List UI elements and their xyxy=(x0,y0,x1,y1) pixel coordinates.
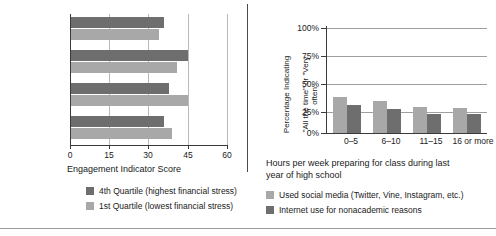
legend-item-4th-quartile: 4th Quartile (highest financial stress) xyxy=(86,186,251,196)
left-y-axis-line xyxy=(70,14,71,145)
ytick-label-75: 75% xyxy=(291,51,319,61)
right-y-axis-line xyxy=(326,26,327,134)
legend-swatch-icon xyxy=(266,206,274,214)
left-legend: 4th Quartile (highest financial stress) … xyxy=(86,186,251,216)
bar-16-or-more-social-media xyxy=(453,108,467,133)
legend-swatch-icon xyxy=(86,187,94,195)
xtick-label-11-15: 11–15 xyxy=(411,136,451,146)
xtick-label-16-or-more: 16 or more xyxy=(449,136,496,146)
legend-label: Used social media (Twitter, Vine, Instag… xyxy=(279,190,464,200)
bar-11-15-social-media xyxy=(413,107,427,133)
right-legend: Used social media (Twitter, Vine, Instag… xyxy=(266,190,494,220)
right-x-axis-title: Hours per week preparing for class durin… xyxy=(266,158,488,181)
legend-swatch-icon xyxy=(86,202,94,210)
left-chart-panel: Collaborative Learning Discussions w/ Di… xyxy=(0,0,248,236)
legend-swatch-icon xyxy=(266,191,274,199)
xtick-60 xyxy=(227,145,228,149)
ytick-label-25: 25% xyxy=(291,107,319,117)
legend-label: 4th Quartile (highest financial stress) xyxy=(99,186,237,196)
legend-label: 1st Quartile (lowest financial stress) xyxy=(99,201,233,211)
right-plot-area xyxy=(326,28,486,133)
bar-collaborative-learning-1st-quartile xyxy=(70,29,159,40)
bar-6-10-social-media xyxy=(373,101,387,133)
bar-16-or-more-internet-nonacademic xyxy=(467,114,481,133)
bar-quality-of-interactions-1st-quartile xyxy=(70,95,188,106)
xtick-label-30: 30 xyxy=(133,150,163,160)
right-y-axis-title-line1: Percentage Indicating xyxy=(281,49,291,141)
bar-collaborative-learning-4th-quartile xyxy=(70,17,164,28)
gridline-45 xyxy=(188,14,189,145)
xtick-label-60: 60 xyxy=(212,150,242,160)
right-y-axis-title-line2: "All the time" or "Very often" xyxy=(300,49,319,141)
legend-label: Internet use for nonacademic reasons xyxy=(279,205,422,215)
bar-supportive-environment-1st-quartile xyxy=(70,128,172,139)
left-x-axis-title: Engagement Indicator Score xyxy=(0,164,248,174)
bar-supportive-environment-4th-quartile xyxy=(70,116,164,127)
gridline-60 xyxy=(227,14,228,145)
bar-0-5-internet-nonacademic xyxy=(347,105,361,133)
bar-11-15-internet-nonacademic xyxy=(427,114,441,133)
xtick-45 xyxy=(188,145,189,149)
right-x-axis-title-line1: Hours per week preparing for class durin… xyxy=(266,158,488,170)
ytick-label-0: 0% xyxy=(291,128,319,138)
left-plot-area xyxy=(70,14,227,145)
xtick-label-15: 15 xyxy=(94,150,124,160)
bar-discussions-diverse-others-4th-quartile xyxy=(70,50,188,61)
xtick-15 xyxy=(109,145,110,149)
xtick-label-0: 0 xyxy=(55,150,85,160)
right-x-axis-title-line2: year of high school xyxy=(266,170,488,182)
bar-0-5-social-media xyxy=(333,97,347,133)
right-x-axis-line xyxy=(326,133,487,134)
bottom-rule xyxy=(0,228,496,229)
ytick-label-100: 100% xyxy=(291,23,319,33)
ytick-label-50: 50% xyxy=(291,79,319,89)
left-x-axis-line xyxy=(70,145,228,146)
xtick-30 xyxy=(148,145,149,149)
legend-item-1st-quartile: 1st Quartile (lowest financial stress) xyxy=(86,201,251,211)
legend-item-social-media: Used social media (Twitter, Vine, Instag… xyxy=(266,190,494,200)
legend-item-internet-nonacademic: Internet use for nonacademic reasons xyxy=(266,205,494,215)
right-y-axis-title: Percentage Indicating "All the time" or … xyxy=(272,49,329,141)
xtick-label-0-5: 0–5 xyxy=(333,136,369,146)
bar-discussions-diverse-others-1st-quartile xyxy=(70,62,177,73)
xtick-label-6-10: 6–10 xyxy=(373,136,409,146)
figure-container: Collaborative Learning Discussions w/ Di… xyxy=(0,0,496,236)
bar-6-10-internet-nonacademic xyxy=(387,109,401,133)
bar-quality-of-interactions-4th-quartile xyxy=(70,83,169,94)
xtick-0 xyxy=(70,145,71,149)
xtick-label-45: 45 xyxy=(173,150,203,160)
